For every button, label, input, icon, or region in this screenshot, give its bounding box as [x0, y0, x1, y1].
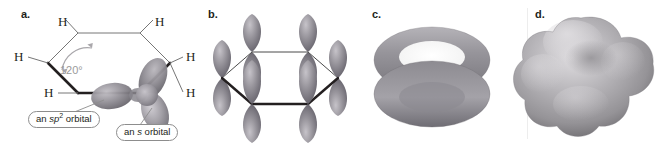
hexagon-ring-b-back — [222, 52, 338, 78]
sp2-orbital-lobes — [89, 54, 174, 136]
callout-sp2-prefix: an — [36, 113, 49, 124]
panel-d-density-surface — [505, 0, 658, 147]
callout-s-orbital: an s orbital — [116, 124, 178, 141]
hexagon-ring-b-front — [222, 78, 338, 104]
panel-a: a. — [0, 0, 200, 147]
bond-angle-label: 120° — [60, 65, 83, 76]
atom-label-h: H — [155, 15, 164, 28]
atom-label-h: H — [44, 86, 53, 99]
callout-sp2-orbital: an sp2 orbital — [28, 111, 100, 128]
callout-s-prefix: an — [124, 126, 137, 137]
panel-d: d. — [505, 0, 658, 147]
pi-cloud-lower — [374, 61, 490, 127]
s-orbital-sphere — [136, 84, 158, 106]
benzene-bonding-figure: a. — [0, 0, 658, 147]
atom-label-h: H — [58, 15, 67, 28]
callout-s-suffix: orbital — [142, 126, 171, 137]
panel-b-p-orbitals — [200, 0, 360, 147]
atom-label-h: H — [14, 50, 23, 63]
panel-c: c. — [360, 0, 505, 147]
atom-label-h: H — [186, 86, 195, 99]
panel-c-pi-clouds — [360, 0, 505, 147]
p-orbital — [299, 60, 317, 143]
callout-sp2-italic: sp — [49, 113, 59, 124]
electron-density-blob — [513, 17, 653, 136]
callout-sp2-suffix: orbital — [63, 113, 92, 124]
panel-b: b. — [200, 0, 360, 147]
p-orbital-front-group — [243, 60, 317, 143]
p-orbital — [243, 60, 261, 143]
atom-label-h: H — [186, 50, 195, 63]
